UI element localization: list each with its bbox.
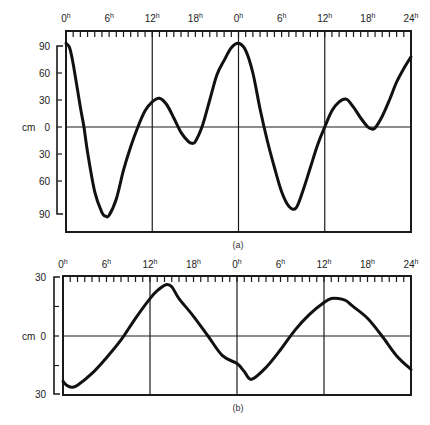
y-tick-label: 30 — [35, 272, 47, 283]
x-tick-label: 0h — [234, 12, 244, 24]
x-tick-label: 12h — [316, 258, 331, 270]
y-axis-unit-label: cm — [22, 331, 35, 342]
y-tick-label: 30 — [35, 389, 47, 400]
y-tick-label: 30 — [39, 95, 51, 106]
panel-caption: (b) — [233, 403, 244, 413]
y-tick-label: 0 — [40, 331, 46, 342]
y-tick-label: 90 — [39, 41, 51, 52]
x-tick-label: 24h — [403, 258, 418, 270]
x-tick-label: 24h — [403, 12, 418, 24]
tide-curves-figure: 0h6h12h18h0h6h12h18h24h9060300306090cm(a… — [0, 0, 430, 425]
y-tick-label: 60 — [39, 68, 51, 79]
x-tick-label: 12h — [145, 12, 160, 24]
x-tick-label: 6h — [277, 12, 287, 24]
panel-a-chart: 0h6h12h18h0h6h12h18h24h9060300306090cm(a… — [22, 12, 419, 250]
x-tick-label: 0h — [232, 258, 242, 270]
y-tick-label: 90 — [39, 209, 51, 220]
x-tick-label: 6h — [104, 12, 114, 24]
x-tick-label: 18h — [360, 12, 375, 24]
panel-caption: (a) — [233, 240, 244, 250]
x-tick-label: 0h — [61, 12, 71, 24]
x-tick-label: 0h — [58, 258, 68, 270]
y-tick-label: 30 — [39, 149, 51, 160]
x-tick-label: 18h — [186, 258, 201, 270]
panel-b-chart: 0h6h12h18h0h6h12h18h24h30030cm(b) — [22, 258, 419, 413]
y-tick-label: 60 — [39, 176, 51, 187]
x-tick-label: 12h — [317, 12, 332, 24]
y-axis-bracket — [57, 46, 63, 214]
x-tick-label: 18h — [360, 258, 375, 270]
x-tick-label: 6h — [276, 258, 286, 270]
x-tick-label: 12h — [142, 258, 157, 270]
y-tick-label: 0 — [44, 122, 50, 133]
y-axis-unit-label: cm — [22, 122, 35, 133]
x-tick-label: 6h — [102, 258, 112, 270]
x-tick-label: 18h — [188, 12, 203, 24]
